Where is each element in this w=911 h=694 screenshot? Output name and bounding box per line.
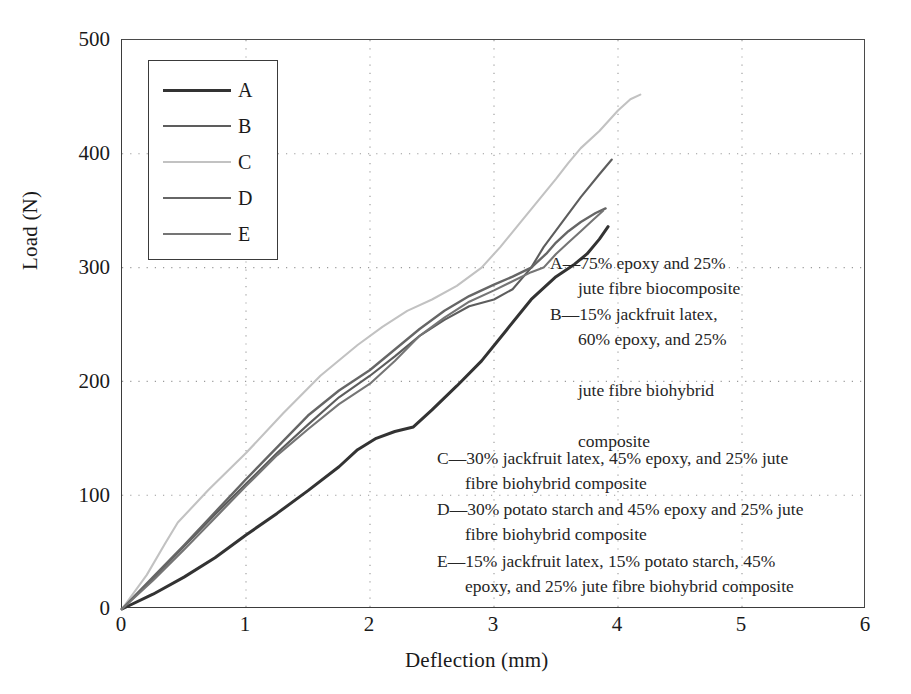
- legend-item-C[interactable]: C: [149, 147, 279, 177]
- legend-swatch-D: [163, 197, 231, 199]
- load-deflection-chart: Load (N) Deflection (mm) 500 400 300 200…: [0, 0, 911, 694]
- series-line-E: [122, 211, 603, 609]
- x-tick-4: 4: [597, 612, 637, 637]
- legend-label-C: C: [238, 152, 251, 172]
- x-tick-6: 6: [845, 612, 885, 637]
- legend-swatch-C: [163, 161, 231, 163]
- legend-item-B[interactable]: B: [149, 111, 279, 141]
- legend-item-E[interactable]: E: [149, 219, 279, 249]
- legend-swatch-B: [163, 125, 231, 127]
- legend-item-A[interactable]: A: [149, 75, 279, 105]
- series-line-A: [122, 227, 608, 609]
- legend-label-E: E: [238, 224, 250, 244]
- y-tick-400: 400: [50, 141, 110, 166]
- x-tick-5: 5: [721, 612, 761, 637]
- y-tick-100: 100: [50, 483, 110, 508]
- legend-label-A: A: [238, 80, 252, 100]
- x-tick-1: 1: [225, 612, 265, 637]
- legend-label-D: D: [238, 188, 252, 208]
- y-tick-200: 200: [50, 369, 110, 394]
- x-axis-title: Deflection (mm): [405, 648, 549, 673]
- y-tick-500: 500: [50, 27, 110, 52]
- legend-swatch-E: [163, 233, 231, 235]
- legend-label-B: B: [238, 116, 251, 136]
- y-tick-300: 300: [50, 255, 110, 280]
- x-tick-3: 3: [473, 612, 513, 637]
- legend-swatch-A: [163, 89, 231, 92]
- legend: ABCDE: [148, 60, 278, 260]
- x-tick-2: 2: [349, 612, 389, 637]
- x-tick-0: 0: [101, 612, 141, 637]
- y-axis-title: Load (N): [18, 191, 43, 270]
- series-line-D: [122, 208, 606, 609]
- legend-item-D[interactable]: D: [149, 183, 279, 213]
